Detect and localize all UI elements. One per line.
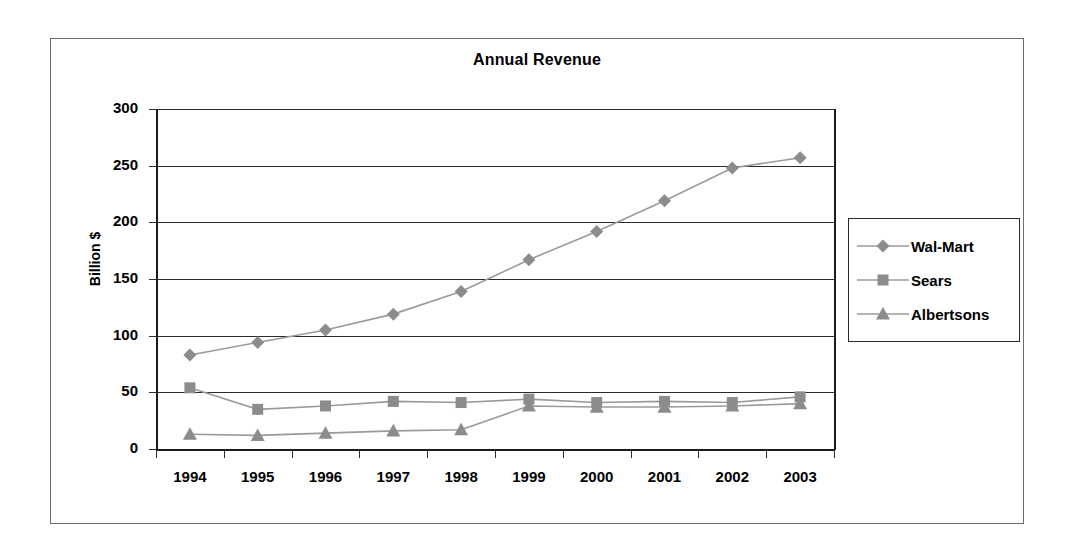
legend-marker-glyph — [878, 275, 889, 286]
legend-marker-square-icon — [855, 270, 911, 290]
legend-item-albertsons[interactable]: Albertsons — [855, 297, 1011, 331]
series-line — [190, 158, 800, 355]
x-tick-mark — [292, 450, 293, 458]
data-point-diamond — [658, 194, 671, 207]
y-tick-label: 100 — [82, 326, 138, 343]
y-tick-label: 250 — [82, 156, 138, 173]
x-tick-label: 2003 — [765, 468, 835, 485]
data-point-square — [184, 382, 195, 393]
x-tick-label: 2001 — [630, 468, 700, 485]
series-wal-mart — [183, 151, 806, 361]
legend-sample-diamond-icon — [855, 236, 911, 256]
x-tick-mark — [156, 450, 157, 458]
x-tick-mark — [224, 450, 225, 458]
data-point-square — [320, 400, 331, 411]
legend-sample-triangle-icon — [855, 304, 911, 324]
y-tick-mark — [149, 449, 156, 450]
legend-label: Sears — [911, 272, 952, 289]
x-tick-mark — [698, 450, 699, 458]
x-tick-mark — [834, 450, 835, 458]
data-point-diamond — [726, 161, 739, 174]
x-tick-label: 1995 — [223, 468, 293, 485]
data-point-diamond — [387, 308, 400, 321]
y-tick-label: 0 — [82, 439, 138, 456]
x-tick-label: 1999 — [494, 468, 564, 485]
chart-page: Annual Revenue Billion $ 050100150200250… — [0, 0, 1074, 552]
series-albertsons — [183, 397, 807, 441]
data-point-diamond — [455, 285, 468, 298]
x-tick-label: 1998 — [426, 468, 496, 485]
legend-marker-glyph — [877, 240, 890, 253]
data-point-diamond — [319, 324, 332, 337]
data-point-square — [388, 396, 399, 407]
legend-label: Albertsons — [911, 306, 989, 323]
legend-item-sears[interactable]: Sears — [855, 263, 1011, 297]
x-tick-label: 1994 — [155, 468, 225, 485]
y-tick-mark — [149, 279, 156, 280]
chart-title: Annual Revenue — [51, 51, 1023, 69]
y-tick-mark — [149, 166, 156, 167]
legend: Wal-MartSearsAlbertsons — [848, 218, 1020, 342]
y-tick-label: 200 — [82, 212, 138, 229]
y-tick-label: 300 — [82, 99, 138, 116]
y-tick-mark — [149, 109, 156, 110]
x-tick-mark — [495, 450, 496, 458]
data-point-diamond — [522, 253, 535, 266]
plot-right-edge — [834, 109, 836, 450]
legend-label: Wal-Mart — [911, 238, 974, 255]
x-tick-mark — [427, 450, 428, 458]
x-tick-label: 2000 — [562, 468, 632, 485]
y-tick-mark — [149, 222, 156, 223]
data-point-square — [252, 404, 263, 415]
x-tick-label: 2002 — [697, 468, 767, 485]
y-tick-mark — [149, 336, 156, 337]
legend-item-wal-mart[interactable]: Wal-Mart — [855, 229, 1011, 263]
y-tick-label: 50 — [82, 382, 138, 399]
y-tick-mark — [149, 392, 156, 393]
x-tick-label: 1997 — [358, 468, 428, 485]
data-point-square — [456, 397, 467, 408]
legend-sample-square-icon — [855, 270, 911, 290]
data-point-diamond — [251, 336, 264, 349]
legend-marker-triangle-icon — [855, 304, 911, 324]
data-point-diamond — [590, 225, 603, 238]
chart-frame: Annual Revenue Billion $ 050100150200250… — [50, 38, 1024, 524]
legend-marker-diamond-icon — [855, 236, 911, 256]
data-point-diamond — [794, 151, 807, 164]
x-tick-mark — [563, 450, 564, 458]
data-point-diamond — [183, 348, 196, 361]
x-tick-mark — [766, 450, 767, 458]
x-tick-label: 1996 — [291, 468, 361, 485]
x-tick-mark — [631, 450, 632, 458]
series-sears — [184, 382, 805, 415]
y-tick-label: 150 — [82, 269, 138, 286]
series-plot — [156, 109, 834, 450]
x-tick-mark — [359, 450, 360, 458]
